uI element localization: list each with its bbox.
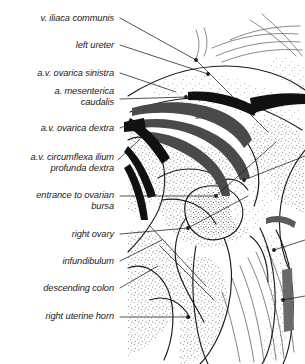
label-descending-colon: descending colon — [8, 283, 114, 294]
label-a-mesenterica-caudalis: a. mesenterica caudalis — [4, 86, 114, 109]
drawing-body — [118, 14, 305, 364]
dot-v-iliaca-communis — [194, 58, 198, 62]
illustration-canvas — [0, 0, 305, 364]
dot-right-ovary — [186, 226, 190, 230]
leader-v-iliaca-communis — [120, 18, 196, 60]
label-right-uterine-horn: right uterine horn — [8, 311, 114, 322]
label-left-ureter: left ureter — [8, 40, 114, 51]
dot-mid-right — [272, 248, 276, 252]
label-entrance-to-ovarian-bursa: entrance to ovarian bursa — [4, 190, 114, 213]
dot-left-ureter — [206, 72, 210, 76]
vessel-small-arc-right — [266, 216, 296, 228]
anatomical-figure: v. iliaca communis left ureter a.v. ovar… — [0, 0, 305, 364]
fine-strands-top — [196, 14, 302, 62]
dot-entrance-ovarian-bursa — [214, 194, 218, 198]
label-right-ovary: right ovary — [8, 229, 114, 240]
stipple-lower-left — [128, 230, 182, 356]
dot-a-mesenterica-caudalis — [184, 95, 188, 99]
dot-right-uterine-horn — [186, 315, 190, 319]
label-v-iliaca-communis: v. iliaca communis — [8, 13, 114, 24]
label-av-ovarica-dextra: a.v. ovarica dextra — [4, 123, 114, 134]
dot-lower-right — [281, 298, 285, 302]
label-av-ovarica-sinistra: a.v. ovarica sinistra — [4, 68, 114, 79]
label-infundibulum: infundibulum — [8, 256, 114, 267]
stipple-top-right — [270, 58, 305, 96]
dot-upper-mid — [242, 178, 246, 182]
label-av-circumflexa-ilium: a.v. circumflexa ilium profunda dextra — [0, 152, 114, 175]
stipple-uterine-horn-left — [180, 256, 227, 364]
